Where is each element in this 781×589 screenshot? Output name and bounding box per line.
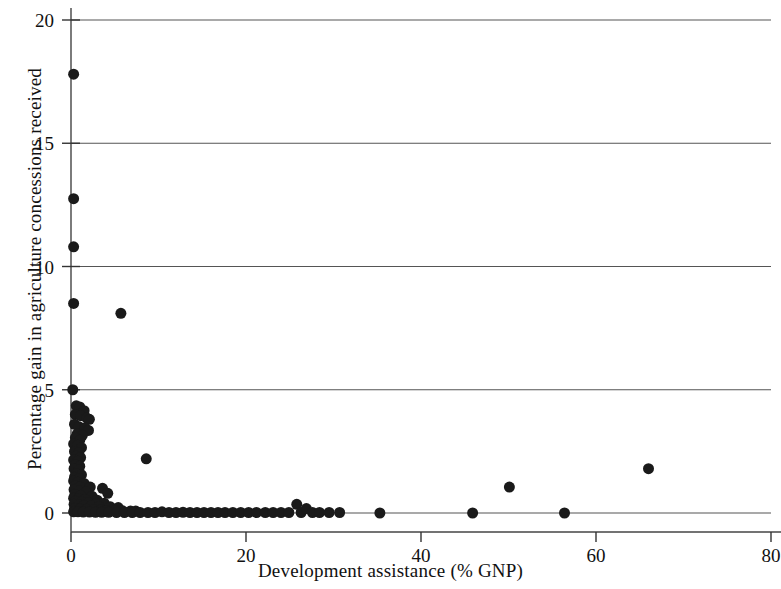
data-point xyxy=(643,463,654,474)
data-point xyxy=(559,508,570,519)
data-point xyxy=(68,298,79,309)
data-point xyxy=(102,488,113,499)
plot-canvas: 020406080 05101520 xyxy=(0,0,781,589)
data-point xyxy=(334,507,345,518)
data-point xyxy=(467,508,478,519)
scatter-plot-figure: 020406080 05101520 Development assistanc… xyxy=(0,0,781,589)
data-point xyxy=(283,507,294,518)
x-axis-label: Development assistance (% GNP) xyxy=(0,560,781,582)
data-point xyxy=(314,507,325,518)
data-point xyxy=(324,507,335,518)
data-point xyxy=(504,482,515,493)
data-point xyxy=(67,384,78,395)
data-point xyxy=(68,241,79,252)
data-point xyxy=(141,453,152,464)
gridlines-group xyxy=(71,20,771,513)
axis-frame xyxy=(71,8,781,532)
data-point xyxy=(68,193,79,204)
data-points-group xyxy=(67,69,654,519)
data-point xyxy=(374,508,385,519)
data-point xyxy=(115,308,126,319)
data-point xyxy=(68,69,79,80)
y-axis-label: Percentage gain in agriculture concessio… xyxy=(24,0,50,539)
